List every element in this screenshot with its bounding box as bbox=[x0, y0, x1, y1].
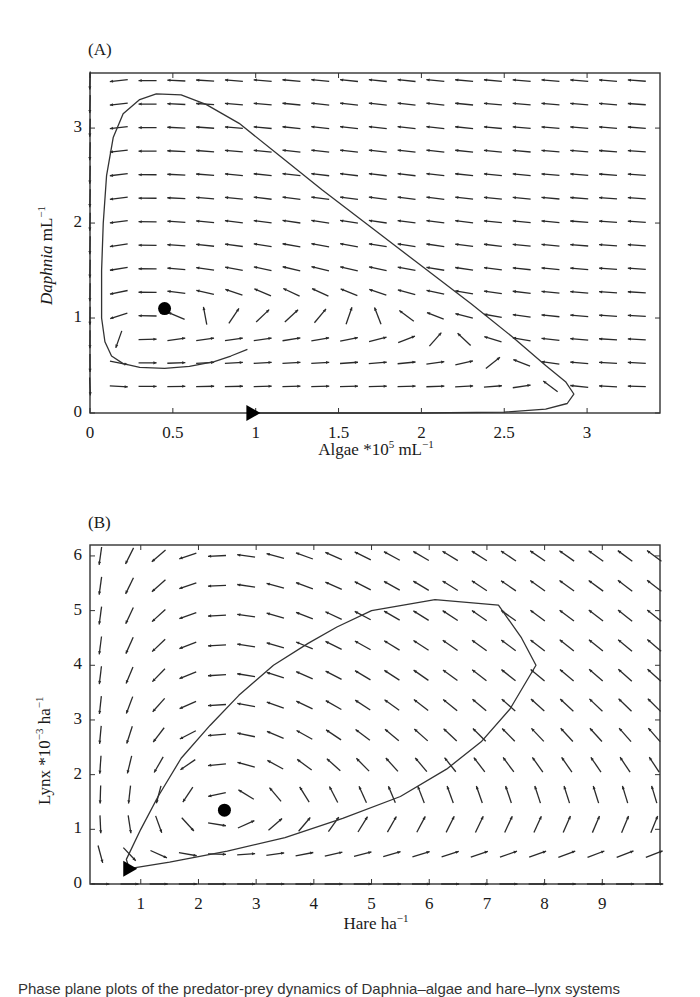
plot-frame bbox=[90, 545, 660, 884]
x-tick-label: 2 bbox=[194, 894, 203, 914]
y-tick-label: 1 bbox=[52, 307, 82, 327]
panel-a-group bbox=[88, 72, 660, 421]
x-tick-label: 4 bbox=[310, 894, 319, 914]
panel-b-group bbox=[90, 545, 663, 886]
start-triangle-marker bbox=[123, 861, 137, 877]
panel-b-xlabel: Hare ha−1 bbox=[343, 912, 408, 934]
y-tick-label: 2 bbox=[52, 764, 82, 784]
x-tick-label: 1 bbox=[251, 423, 260, 443]
x-tick-label: 6 bbox=[425, 894, 434, 914]
vector-field bbox=[91, 547, 663, 886]
y-tick-label: 3 bbox=[52, 117, 82, 137]
xlabel-unit: mL bbox=[394, 440, 422, 459]
y-tick-label: 0 bbox=[52, 873, 82, 893]
equilibrium-point-marker bbox=[158, 302, 171, 315]
ylabel-unit: mL bbox=[37, 218, 56, 246]
panel-a-ylabel: Daphnia mL−1 bbox=[35, 206, 57, 305]
vector-field bbox=[88, 72, 645, 396]
ylabel-unit: ha bbox=[35, 708, 54, 728]
y-tick-label: 5 bbox=[52, 600, 82, 620]
xlabel-exponent: −1 bbox=[397, 912, 409, 924]
x-tick-label: 3 bbox=[583, 423, 592, 443]
trajectory-line bbox=[102, 94, 574, 413]
y-tick-label: 6 bbox=[52, 545, 82, 565]
xlabel-text: Algae *10 bbox=[318, 440, 388, 459]
xlabel-unit-exponent: −1 bbox=[422, 438, 434, 450]
x-tick-label: 0.5 bbox=[162, 423, 183, 443]
ylabel-text: Lynx *10 bbox=[35, 740, 54, 805]
panel-b-ylabel: Lynx *10−3 ha−1 bbox=[33, 697, 55, 805]
x-tick-label: 7 bbox=[483, 894, 492, 914]
panel-b-label: (B) bbox=[88, 513, 111, 533]
panel-a-xlabel: Algae *105 mL−1 bbox=[318, 438, 433, 460]
x-tick-label: 2.5 bbox=[494, 423, 515, 443]
x-tick-label: 0 bbox=[86, 423, 95, 443]
ylabel-text: Daphnia bbox=[37, 246, 56, 306]
figure-caption: Phase plane plots of the predator-prey d… bbox=[18, 980, 620, 997]
ylabel-exponent: −3 bbox=[33, 729, 45, 741]
x-tick-label: 3 bbox=[252, 894, 261, 914]
start-triangle-marker bbox=[246, 405, 260, 421]
xlabel-text: Hare ha bbox=[343, 914, 396, 933]
equilibrium-point-marker bbox=[218, 804, 231, 817]
ylabel-unit-exponent: −1 bbox=[33, 697, 45, 709]
x-tick-label: 1 bbox=[137, 894, 146, 914]
y-tick-label: 3 bbox=[52, 709, 82, 729]
y-tick-label: 0 bbox=[52, 402, 82, 422]
x-tick-label: 8 bbox=[540, 894, 549, 914]
x-tick-label: 9 bbox=[598, 894, 607, 914]
x-tick-label: 5 bbox=[367, 894, 376, 914]
y-tick-label: 1 bbox=[52, 818, 82, 838]
y-tick-label: 4 bbox=[52, 654, 82, 674]
ylabel-unit-exponent: −1 bbox=[35, 206, 47, 218]
